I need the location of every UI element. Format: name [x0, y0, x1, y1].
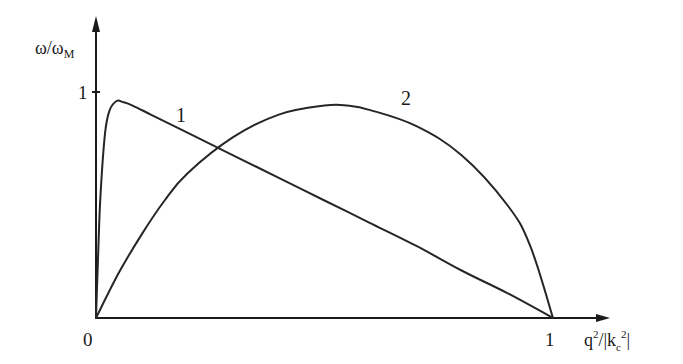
x-axis-label: q2/|kc2| — [584, 328, 630, 353]
y-axis-arrow-icon — [92, 16, 100, 32]
x-axis-arrow-icon — [596, 314, 610, 322]
x-tick-label-1: 1 — [545, 329, 555, 350]
chart-plot: ω/ωM 1 0 1 q2/|kc2| 1 2 — [0, 0, 683, 364]
curve-1-label: 1 — [176, 104, 186, 126]
curve-2 — [96, 105, 553, 318]
y-tick-label-1: 1 — [78, 82, 88, 103]
curve-1 — [96, 100, 553, 318]
curve-2-label: 2 — [401, 87, 411, 109]
origin-label: 0 — [83, 329, 93, 350]
y-axis-label: ω/ωM — [35, 38, 75, 61]
